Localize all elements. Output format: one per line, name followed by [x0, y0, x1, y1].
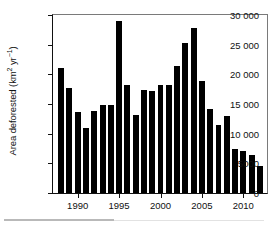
- bar-slot: [98, 15, 106, 193]
- bar[interactable]: [124, 85, 130, 193]
- bar[interactable]: [75, 112, 81, 193]
- bar-slot: [65, 15, 73, 193]
- bar-slot: [57, 15, 65, 193]
- x-axis-tick-label: 2000: [150, 200, 171, 211]
- y-axis-title-sup-year: −1: [6, 50, 13, 58]
- y-axis-title-mid: yr: [7, 57, 18, 67]
- y-axis-tick-label: 20 000: [230, 69, 259, 80]
- bar[interactable]: [174, 66, 180, 193]
- bar-slot: [156, 15, 164, 193]
- bar[interactable]: [232, 149, 238, 193]
- y-axis-tick-label: 30 000: [230, 10, 259, 21]
- y-axis-tick: [48, 134, 53, 135]
- bar-slot: [107, 15, 115, 193]
- bar[interactable]: [66, 88, 72, 193]
- deforestation-bar-chart-figure: Area deforested (km2 yr−1) 0500010 00015…: [0, 0, 279, 226]
- bar[interactable]: [58, 68, 64, 193]
- x-axis-tick: [202, 193, 203, 198]
- footer-divider-faint: [114, 220, 264, 221]
- bar[interactable]: [224, 116, 230, 193]
- bar-slot: [190, 15, 198, 193]
- bar-slot: [82, 15, 90, 193]
- bar-slot: [123, 15, 131, 193]
- bar[interactable]: [149, 91, 155, 193]
- y-axis-tick: [48, 163, 53, 164]
- y-axis-title-suffix: ): [7, 46, 18, 49]
- y-axis-tick: [48, 74, 53, 75]
- bar[interactable]: [108, 105, 114, 193]
- bar[interactable]: [166, 85, 172, 193]
- x-axis-tick: [161, 193, 162, 198]
- y-axis-tick-label: 5000: [238, 158, 259, 169]
- bar-slot: [173, 15, 181, 193]
- bar[interactable]: [191, 28, 197, 193]
- bar[interactable]: [182, 43, 188, 193]
- bar-slot: [198, 15, 206, 193]
- y-axis-title-sup-area: 2: [6, 68, 13, 72]
- y-axis-title: Area deforested (km2 yr−1): [3, 6, 17, 196]
- y-axis-tick: [48, 104, 53, 105]
- y-axis-tick: [48, 45, 53, 46]
- y-axis-tick-label: 25 000: [230, 39, 259, 50]
- bar[interactable]: [116, 21, 122, 193]
- bar[interactable]: [207, 109, 213, 193]
- x-axis-tick: [78, 193, 79, 198]
- y-axis-title-prefix: Area deforested (km: [7, 71, 18, 155]
- bar-slot: [181, 15, 189, 193]
- y-axis-tick-label: 0: [254, 188, 259, 199]
- bar[interactable]: [91, 111, 97, 193]
- x-axis-tick: [243, 193, 244, 198]
- x-axis-tick-label: 1995: [109, 200, 130, 211]
- plot-area: 0500010 00015 00020 00025 00030 00019901…: [52, 14, 268, 194]
- y-axis-tick: [48, 193, 53, 194]
- bar-slot: [140, 15, 148, 193]
- bar[interactable]: [83, 128, 89, 193]
- bar[interactable]: [158, 85, 164, 193]
- bar[interactable]: [199, 81, 205, 193]
- bar-slot: [115, 15, 123, 193]
- bar-slot: [165, 15, 173, 193]
- y-axis-tick: [48, 15, 53, 16]
- x-axis-tick-label: 2005: [191, 200, 212, 211]
- x-axis-tick: [119, 193, 120, 198]
- x-axis-tick-label: 1990: [67, 200, 88, 211]
- bar-slot: [90, 15, 98, 193]
- y-axis-tick-label: 10 000: [230, 128, 259, 139]
- bar-slot: [206, 15, 214, 193]
- bar-slot: [132, 15, 140, 193]
- bar-slot: [148, 15, 156, 193]
- bar[interactable]: [216, 125, 222, 193]
- bar[interactable]: [133, 115, 139, 193]
- x-axis-tick-label: 2010: [233, 200, 254, 211]
- y-axis-tick-label: 15 000: [230, 99, 259, 110]
- bar-slot: [214, 15, 222, 193]
- bar-slot: [74, 15, 82, 193]
- bar[interactable]: [141, 90, 147, 193]
- bar[interactable]: [100, 105, 106, 193]
- footer-divider: [4, 219, 114, 221]
